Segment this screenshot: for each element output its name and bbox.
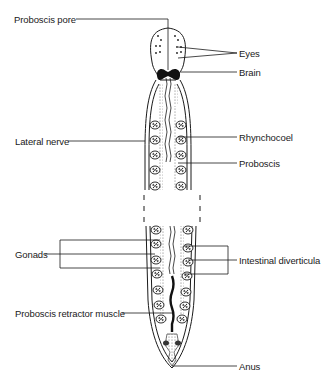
body-break bbox=[144, 195, 200, 225]
label-proboscis-retractor-muscle: Proboscis retractor muscle bbox=[15, 308, 125, 319]
label-brain: Brain bbox=[239, 67, 261, 78]
label-proboscis: Proboscis bbox=[239, 158, 280, 169]
label-proboscis-pore: Proboscis pore bbox=[14, 14, 76, 25]
label-eyes: Eyes bbox=[239, 48, 260, 59]
label-lateral-nerve: Lateral nerve bbox=[15, 136, 69, 147]
label-anus: Anus bbox=[239, 361, 260, 372]
label-intestinal-diverticula: Intestinal diverticula bbox=[239, 255, 320, 266]
head bbox=[151, 28, 186, 80]
retractor-muscle-shape bbox=[171, 276, 174, 332]
label-gonads: Gonads bbox=[15, 249, 48, 260]
label-rhynchocoel: Rhynchocoel bbox=[239, 132, 293, 143]
worm-illustration bbox=[0, 0, 331, 380]
worm-anatomy-diagram: Proboscis pore Eyes Brain Lateral nerve … bbox=[0, 0, 331, 380]
